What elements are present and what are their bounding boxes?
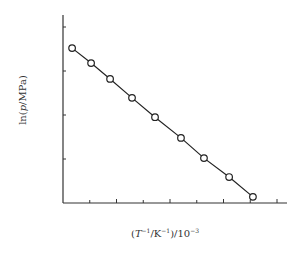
- data-point-marker: [178, 135, 185, 142]
- y-axis-label: ln(p/MPa): [17, 75, 28, 125]
- series-line: [72, 48, 253, 197]
- data-point-marker: [152, 114, 159, 121]
- data-point-marker: [250, 194, 257, 201]
- x-label-variable: T: [135, 228, 142, 239]
- data-point-marker: [129, 95, 136, 102]
- data-point-marker: [88, 60, 95, 67]
- x-label-exp3: −3: [190, 227, 199, 234]
- x-label-scale: )/10: [170, 228, 190, 239]
- axes: [63, 15, 287, 203]
- data-point-marker: [69, 45, 76, 52]
- y-label-prefix: ln(: [17, 111, 28, 125]
- data-point-marker: [226, 174, 233, 181]
- data-point-marker: [107, 76, 114, 83]
- x-label-unit: /K: [150, 228, 161, 239]
- data-point-marker: [201, 155, 208, 162]
- x-axis-label: (T−1/K−1)/10−3: [131, 227, 199, 239]
- x-label-exp2: −1: [161, 227, 170, 234]
- chart-plot: [0, 0, 306, 254]
- data-series: [69, 45, 256, 200]
- y-label-suffix: /MPa): [17, 75, 28, 105]
- y-label-variable: p: [17, 105, 28, 111]
